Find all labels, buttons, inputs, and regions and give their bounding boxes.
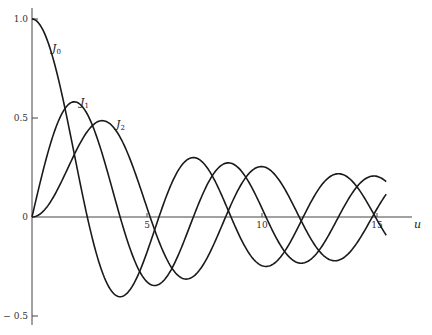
x-tick-label: 10 [256,220,268,230]
y-tick-label: 0 [22,212,28,222]
curves [32,19,386,297]
y-tick-label: − 0.5 [3,311,28,321]
y-tick-label: 1.0 [14,14,29,24]
curve-j1 [32,102,386,286]
axes: 1.00.50− 0.551015u [3,8,421,325]
y-tick-label: 0.5 [14,113,29,123]
labels: J0J1J2 [50,42,125,132]
label-j0: J0 [50,42,61,56]
bessel-chart: 1.00.50− 0.551015u J0J1J2 [0,0,432,335]
curve-j2 [32,121,386,279]
x-tick-label: 5 [144,220,150,230]
x-axis-label: u [414,218,421,231]
label-j1: J1 [78,96,89,110]
label-j2: J2 [114,118,125,132]
